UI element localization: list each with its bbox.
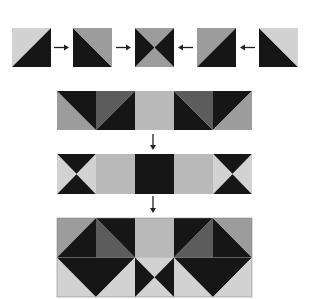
strip1-cell-1 (57, 91, 96, 130)
second-pieced-strip (57, 154, 252, 194)
final-cell-r2c4 (174, 258, 213, 298)
hst-unit-1 (12, 28, 51, 67)
final-cell-r1c3 (135, 218, 174, 258)
strip2-cell-1 (57, 154, 96, 194)
strip2-cell-5 (213, 154, 252, 194)
arrow-left-icon (240, 45, 255, 51)
final-cell-r1c2 (96, 218, 135, 258)
final-assembled-block (57, 218, 252, 297)
hst-unit-5 (259, 28, 298, 67)
arrow-left-icon (178, 45, 193, 51)
final-cell-r1c5 (213, 218, 252, 258)
final-cell-r1c4 (174, 218, 213, 258)
diagram-canvas (0, 0, 313, 299)
final-cell-r2c5 (213, 258, 252, 298)
strip2-cell-3 (135, 154, 174, 194)
strip1-cell-2 (96, 91, 135, 130)
final-cell-r2c1 (57, 258, 96, 298)
arrow-right-icon (54, 45, 69, 51)
arrow-down-icon (150, 134, 156, 150)
final-cell-r2c3 (135, 258, 174, 298)
final-cell-r2c2 (96, 258, 135, 298)
strip1-cell-5 (213, 91, 252, 130)
strip2-cell-4 (174, 154, 213, 194)
strip1-cell-3 (135, 91, 174, 130)
arrow-down-icon (150, 196, 156, 213)
hst-unit-3 (135, 28, 174, 67)
first-pieced-strip (57, 91, 252, 130)
strip1-cell-4 (174, 91, 213, 130)
quilt-block-diagram (0, 0, 313, 299)
strip2-cell-2 (96, 154, 135, 194)
half-square-triangle-units-row (12, 28, 298, 67)
final-cell-r1c1 (57, 218, 96, 258)
hst-unit-2 (73, 28, 112, 67)
hst-unit-4 (197, 28, 236, 67)
arrow-right-icon (116, 45, 131, 51)
